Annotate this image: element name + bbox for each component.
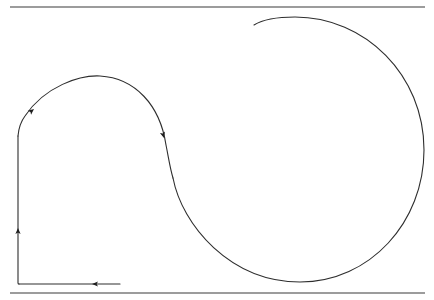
trajectory-diagram: [0, 0, 434, 300]
arrow-arc-upper-left-icon: [28, 107, 36, 115]
trajectory-path: [18, 17, 424, 284]
rules: [10, 7, 425, 293]
top-arc-segment: [18, 76, 173, 178]
direction-arrows: [15, 107, 166, 287]
vertical-leg-segment: [18, 136, 19, 284]
big-loop-segment: [173, 17, 424, 282]
